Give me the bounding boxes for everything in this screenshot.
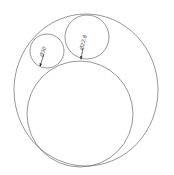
drawing-canvas: Ø30 Ø22.8 xyxy=(0,0,174,175)
top-dimension-label: Ø22.8 xyxy=(78,34,88,51)
left-small-circle xyxy=(30,34,64,68)
left-dimension-label: Ø30 xyxy=(38,46,47,59)
